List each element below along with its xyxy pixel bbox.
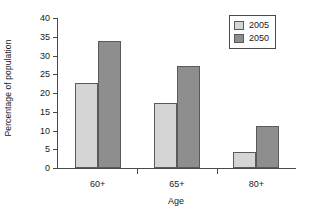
y-axis-tick — [53, 131, 58, 132]
bar-chart-figure: Percentage of population 051015202530354… — [0, 0, 310, 218]
legend-item-label: 2005 — [249, 21, 269, 30]
x-axis-tick — [217, 168, 218, 174]
legend-item-label: 2050 — [249, 34, 269, 43]
y-axis-tick-label: 15 — [40, 107, 50, 117]
y-axis-tick — [53, 18, 58, 19]
bar-60plus-2050 — [98, 41, 121, 169]
chart-legend: 20052050 — [229, 15, 276, 49]
y-axis-tick — [53, 168, 58, 169]
x-axis-title: Age — [57, 196, 295, 206]
y-axis-tick-label: 10 — [40, 126, 50, 136]
legend-item: 2050 — [234, 32, 269, 45]
y-axis-tick-label: 20 — [40, 88, 50, 98]
y-axis-tick — [53, 56, 58, 57]
y-axis-tick-label: 0 — [45, 163, 50, 173]
bar-65plus-2005 — [154, 103, 177, 168]
y-axis-tick — [53, 149, 58, 150]
x-axis-tick — [137, 168, 138, 174]
y-axis-tick — [53, 37, 58, 38]
legend-swatch-icon — [234, 21, 244, 30]
y-axis-title: Percentage of population — [0, 0, 16, 175]
y-axis-tick-label: 35 — [40, 32, 50, 42]
bar-60plus-2005 — [75, 83, 98, 169]
y-axis-tick-label: 25 — [40, 69, 50, 79]
x-axis-tick-label: 60+ — [90, 179, 105, 189]
legend-swatch-icon — [234, 34, 244, 43]
y-axis-tick-label: 5 — [45, 144, 50, 154]
bar-65plus-2050 — [177, 66, 200, 168]
y-axis-tick-label: 30 — [40, 51, 50, 61]
bar-80plus-2050 — [256, 126, 279, 168]
y-axis-title-label: Percentage of population — [3, 39, 13, 136]
x-axis-tick-label: 80+ — [249, 179, 264, 189]
legend-item: 2005 — [234, 19, 269, 32]
y-axis-tick — [53, 74, 58, 75]
y-axis-tick — [53, 93, 58, 94]
y-axis-tick-label: 40 — [40, 13, 50, 23]
bar-80plus-2005 — [233, 152, 256, 168]
x-axis-tick-label: 65+ — [169, 179, 184, 189]
y-axis-tick — [53, 112, 58, 113]
